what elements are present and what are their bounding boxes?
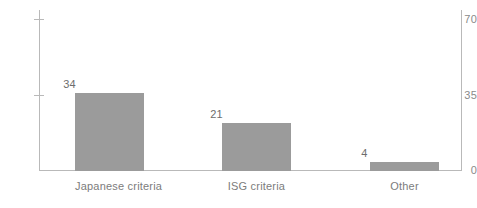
bar-value-label-japanese-criteria: 34 bbox=[35, 79, 104, 90]
x-category-label-isg-criteria: ISG criteria bbox=[222, 180, 291, 192]
bar-chart: 70 35 0 34 21 4 Japanese criteria ISG cr… bbox=[0, 0, 477, 208]
bar-value-label-other: 4 bbox=[330, 148, 399, 159]
x-category-label-other: Other bbox=[370, 180, 439, 192]
bar-isg-criteria bbox=[222, 123, 291, 171]
bar-japanese-criteria bbox=[75, 93, 144, 171]
x-category-label-japanese-criteria: Japanese criteria bbox=[75, 180, 144, 192]
bar-value-label-isg-criteria: 21 bbox=[182, 109, 251, 120]
bar-other bbox=[370, 162, 439, 171]
